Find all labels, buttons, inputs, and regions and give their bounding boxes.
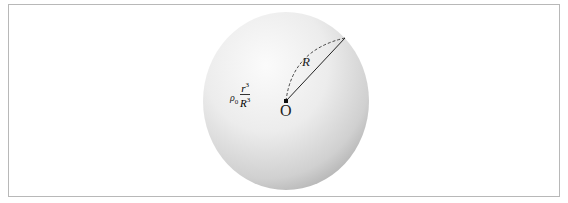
fraction-denominator: R3 [240, 95, 250, 109]
density-fraction: r3 R3 [240, 80, 250, 108]
radius-label: R [302, 54, 310, 70]
center-label: O [280, 102, 292, 120]
fraction-numerator: r3 [240, 80, 250, 95]
density-symbol: ρ0 [230, 92, 238, 106]
